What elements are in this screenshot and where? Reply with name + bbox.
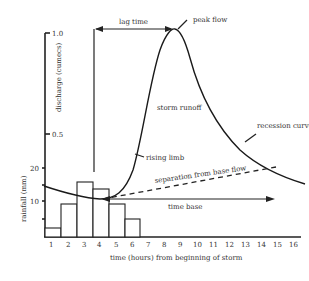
rainfall-tick-20: 20 — [30, 165, 39, 173]
rainfall-axis: 20 10 rainfall (mm) — [20, 150, 45, 237]
time-tick: 13 — [241, 241, 250, 249]
time-tick-labels: 1 2 3 4 5 6 7 8 9 10 11 12 13 14 15 16 t… — [49, 241, 298, 262]
time-tick: 14 — [257, 241, 266, 249]
time-tick: 2 — [66, 241, 70, 249]
rainfall-tick-10: 10 — [30, 198, 39, 206]
time-tick: 9 — [178, 241, 182, 249]
recession-curve-leader — [245, 134, 256, 142]
rising-limb-label: rising limb — [146, 154, 185, 162]
recession-curve-label: recession curve — [257, 122, 309, 130]
time-tick: 3 — [82, 241, 86, 249]
time-axis-label: time (hours) from beginning of storm — [110, 254, 243, 262]
rainfall-bar-5 — [109, 204, 125, 237]
rainfall-bar-3 — [77, 182, 93, 237]
time-base-label: time base — [168, 203, 202, 211]
peak-flow-leader — [178, 20, 187, 29]
discharge-tick-1: 1.0 — [52, 30, 63, 38]
rainfall-bar-2 — [61, 204, 77, 237]
peak-flow-label: peak flow — [193, 16, 227, 24]
discharge-axis-label: discharge (cumecs) — [55, 42, 63, 112]
time-tick: 10 — [193, 241, 202, 249]
lag-arrowhead-right-icon — [165, 26, 173, 32]
time-tick: 6 — [130, 241, 135, 249]
time-tick: 5 — [114, 241, 118, 249]
time-tick: 11 — [209, 241, 218, 249]
time-tick: 4 — [97, 241, 102, 249]
rainfall-bar-6 — [125, 219, 140, 237]
separation-label: separation from base flow — [154, 164, 247, 185]
hydrograph-figure: 1.0 0.5 discharge (cumecs) 20 10 rainfal… — [0, 0, 309, 281]
time-tick: 1 — [49, 241, 53, 249]
discharge-axis: 1.0 0.5 discharge (cumecs) — [45, 30, 63, 150]
time-tick: 12 — [225, 241, 234, 249]
discharge-tick-0-5: 0.5 — [52, 131, 63, 139]
rainfall-bar-4 — [93, 189, 109, 237]
rainfall-bar-1 — [45, 228, 61, 237]
lag-time-label: lag time — [119, 18, 148, 26]
time-tick: 16 — [289, 241, 298, 249]
rainfall-axis-label: rainfall (mm) — [20, 175, 28, 222]
time-tick: 15 — [273, 241, 282, 249]
time-tick: 7 — [146, 241, 150, 249]
lag-arrowhead-left-icon — [95, 26, 103, 32]
time-tick: 8 — [162, 241, 166, 249]
storm-runoff-label: storm runoff — [157, 104, 202, 112]
time-base-arrowhead-right-icon — [266, 196, 275, 202]
